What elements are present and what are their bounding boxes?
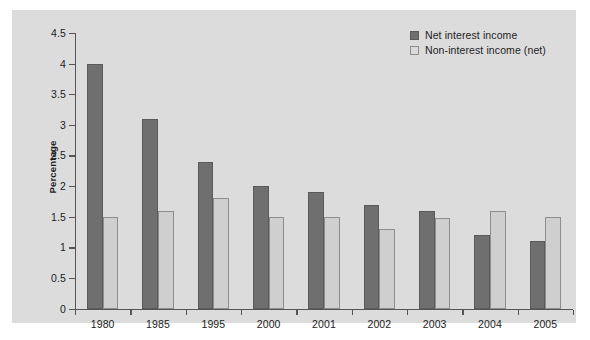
x-axis-tick-label: 2002	[367, 318, 391, 330]
bar-2002-series0[interactable]	[364, 205, 380, 309]
bar-1980-series1[interactable]	[103, 217, 119, 309]
bar-2005-series0[interactable]	[530, 241, 546, 308]
bar-2001-series0[interactable]	[308, 192, 324, 308]
bar-group	[241, 33, 296, 309]
y-axis-tick-label: 0.5	[51, 272, 66, 284]
bar-1995-series1[interactable]	[213, 198, 229, 308]
bar-2001-series1[interactable]	[324, 217, 340, 309]
x-axis-tick-mark	[462, 310, 463, 315]
x-axis-tick-label: 2003	[423, 318, 447, 330]
x-axis-tick-label: 2001	[312, 318, 336, 330]
y-axis-tick-label: 0	[60, 303, 66, 315]
x-axis-tick-label: 2005	[533, 318, 557, 330]
y-axis-title: Percentage	[47, 140, 58, 193]
chart-legend: Net interest incomeNon-interest income (…	[410, 29, 546, 56]
bar-1985-series1[interactable]	[158, 211, 174, 309]
x-axis-tick-mark	[241, 310, 242, 315]
bar-1980-series0[interactable]	[87, 64, 103, 309]
x-axis-tick-mark	[296, 310, 297, 315]
bar-group	[186, 33, 241, 309]
legend-item-1[interactable]: Non-interest income (net)	[410, 44, 546, 56]
x-axis-tick-label: 1995	[201, 318, 225, 330]
legend-label: Net interest income	[425, 29, 517, 41]
legend-swatch-icon	[410, 31, 419, 40]
bar-group	[352, 33, 407, 309]
x-axis-line	[75, 309, 573, 310]
bar-2000-series1[interactable]	[269, 217, 285, 309]
y-axis-tick-label: 3.5	[51, 88, 66, 100]
chart-figure: Percentage 00.511.522.533.544.5 19801985…	[0, 0, 590, 340]
x-axis-tick-mark	[352, 310, 353, 315]
x-axis-tick-label: 2000	[257, 318, 281, 330]
x-axis-tick-label: 1985	[146, 318, 170, 330]
bar-2003-series1[interactable]	[435, 218, 451, 309]
y-axis-tick-label: 3	[60, 119, 66, 131]
bar-group	[75, 33, 130, 309]
bar-group	[462, 33, 517, 309]
bar-group	[518, 33, 573, 309]
x-axis-tick-mark	[130, 310, 131, 315]
bar-group	[407, 33, 462, 309]
x-axis-tick-mark	[75, 310, 76, 315]
legend-item-0[interactable]: Net interest income	[410, 29, 546, 41]
bar-2003-series0[interactable]	[419, 211, 435, 309]
x-axis-tick-mark	[573, 310, 574, 315]
x-axis-tick-mark	[407, 310, 408, 315]
bar-2000-series0[interactable]	[253, 186, 269, 308]
bar-2004-series1[interactable]	[490, 211, 506, 309]
y-axis-tick-label: 4	[60, 58, 66, 70]
bar-group	[296, 33, 351, 309]
y-axis-tick-label: 1.5	[51, 211, 66, 223]
y-axis-tick-label: 2	[60, 180, 66, 192]
y-axis-tick-label: 1	[60, 241, 66, 253]
bar-group	[130, 33, 185, 309]
bar-1995-series0[interactable]	[198, 162, 214, 309]
x-axis-tick-mark	[518, 310, 519, 315]
bar-2005-series1[interactable]	[545, 217, 561, 309]
y-axis-tick-label: 2.5	[51, 149, 66, 161]
bar-1985-series0[interactable]	[142, 119, 158, 309]
y-axis-tick-label: 4.5	[51, 27, 66, 39]
legend-swatch-icon	[410, 46, 419, 55]
legend-label: Non-interest income (net)	[425, 44, 546, 56]
bar-2004-series0[interactable]	[474, 235, 490, 308]
bar-2002-series1[interactable]	[379, 229, 395, 309]
plot-area: 00.511.522.533.544.5 1980198519952000200…	[75, 33, 573, 310]
x-axis-tick-mark	[186, 310, 187, 315]
x-axis-tick-label: 1980	[91, 318, 115, 330]
chart-panel: Percentage 00.511.522.533.544.5 19801985…	[12, 10, 576, 323]
x-axis-tick-label: 2004	[478, 318, 502, 330]
